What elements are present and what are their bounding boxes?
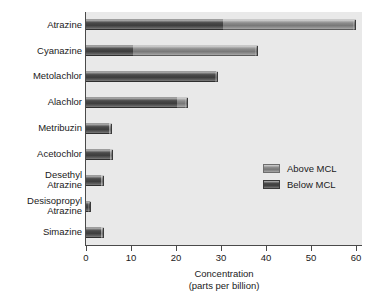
x-tick-label: 60	[341, 252, 371, 263]
x-tick-label: 30	[206, 252, 236, 263]
bar-segment-below-mcl[interactable]	[86, 19, 223, 30]
x-tick-mark	[176, 246, 177, 251]
x-tick-label: 50	[296, 252, 326, 263]
bar-end-cap	[255, 46, 258, 56]
x-axis-title-line2: (parts per billion)	[86, 280, 362, 292]
bar-segment-above-mcl[interactable]	[101, 175, 103, 186]
category-label: Metolachlor	[0, 71, 82, 82]
bar-segment-above-mcl[interactable]	[90, 201, 91, 212]
x-tick-label: 10	[116, 252, 146, 263]
bar-segment-below-mcl[interactable]	[86, 175, 101, 186]
x-tick-mark	[86, 246, 87, 251]
bar-end-cap	[215, 72, 218, 82]
stacked-bar[interactable]	[86, 227, 104, 238]
category-label: Atrazine	[0, 20, 82, 31]
stacked-bar[interactable]	[86, 201, 91, 212]
bar-segment-above-mcl[interactable]	[223, 19, 356, 30]
stacked-bar[interactable]	[86, 175, 104, 186]
legend-item[interactable]: Below MCL	[263, 176, 337, 192]
stacked-bar[interactable]	[86, 71, 218, 82]
x-axis-line	[85, 245, 362, 246]
x-tick-mark	[131, 246, 132, 251]
category-label: Metribuzin	[0, 123, 82, 134]
x-axis-title-line1: Concentration	[86, 268, 362, 280]
stacked-bar[interactable]	[86, 123, 112, 134]
bar-end-cap	[101, 176, 104, 186]
x-tick-mark	[356, 246, 357, 251]
stacked-bar[interactable]	[86, 45, 258, 56]
x-tick-label: 0	[71, 252, 101, 263]
category-label: Acetochlor	[0, 149, 82, 160]
category-label: Alachlor	[0, 97, 82, 108]
x-tick-mark	[266, 246, 267, 251]
bar-end-cap	[353, 20, 356, 30]
bar-segment-above-mcl[interactable]	[110, 149, 113, 160]
bar-segment-below-mcl[interactable]	[86, 97, 177, 108]
bar-segment-above-mcl[interactable]	[216, 71, 218, 82]
bar-segment-above-mcl[interactable]	[101, 227, 103, 238]
x-tick-mark	[221, 246, 222, 251]
bar-segment-below-mcl[interactable]	[86, 45, 133, 56]
stacked-bar[interactable]	[86, 19, 356, 30]
bar-segment-below-mcl[interactable]	[86, 227, 101, 238]
bar-end-cap	[110, 150, 113, 160]
category-label: Cyanazine	[0, 46, 82, 57]
bar-segment-below-mcl[interactable]	[86, 123, 109, 134]
bar-segment-below-mcl[interactable]	[86, 149, 110, 160]
bar-end-cap	[88, 202, 91, 212]
chart-figure: AtrazineCyanazineMetolachlorAlachlorMetr…	[0, 0, 374, 305]
x-tick-label: 20	[161, 252, 191, 263]
legend-label: Above MCL	[287, 163, 337, 174]
x-tick-mark	[311, 246, 312, 251]
bar-segment-above-mcl[interactable]	[177, 97, 188, 108]
category-label: Simazine	[0, 227, 82, 238]
legend-label: Below MCL	[287, 179, 336, 190]
stacked-bar[interactable]	[86, 97, 188, 108]
legend-swatch-below-mcl	[263, 180, 280, 189]
bar-end-cap	[101, 228, 104, 238]
chart-legend: Above MCLBelow MCL	[263, 160, 337, 192]
category-label: Desisopropyl Atrazine	[0, 196, 82, 217]
bar-segment-above-mcl[interactable]	[133, 45, 258, 56]
bar-end-cap	[185, 98, 188, 108]
stacked-bar[interactable]	[86, 149, 113, 160]
legend-item[interactable]: Above MCL	[263, 160, 337, 176]
legend-swatch-above-mcl	[263, 164, 280, 173]
x-axis-title: Concentration (parts per billion)	[86, 268, 362, 292]
x-tick-label: 40	[251, 252, 281, 263]
bar-segment-below-mcl[interactable]	[86, 71, 216, 82]
bar-end-cap	[109, 124, 112, 134]
category-axis-labels: AtrazineCyanazineMetolachlorAlachlorMetr…	[0, 12, 82, 245]
category-label: Desethyl Atrazine	[0, 170, 82, 191]
bar-segment-above-mcl[interactable]	[109, 123, 112, 134]
